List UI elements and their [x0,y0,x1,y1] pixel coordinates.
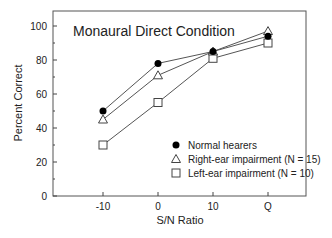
y-tick-label: 20 [36,157,48,168]
line-chart: Monaural Direct Condition 020406080100 -… [0,0,332,238]
open-square-marker [172,169,180,177]
y-tick-label: 100 [30,21,47,32]
y-tick-label: 60 [36,89,48,100]
chart-title: Monaural Direct Condition [73,23,235,39]
legend-label: Left-ear impairment (N = 10) [188,168,314,179]
open-triangle-marker [99,115,108,123]
legend: Normal hearersRight-ear impairment (N = … [172,140,321,179]
open-square-marker [99,141,107,149]
open-square-marker [264,39,272,47]
y-tick-label: 0 [41,191,47,202]
filled-circle-marker [100,108,107,115]
legend-item: Right-ear impairment (N = 15) [172,154,321,165]
series-line [103,31,268,119]
series-markers [99,39,272,149]
y-axis-label: Percent Correct [12,64,24,141]
filled-circle-marker [210,48,217,55]
open-triangle-marker [172,155,181,163]
legend-item: Normal hearers [173,140,257,151]
series-line [103,43,268,145]
filled-circle-marker [265,33,272,40]
series-markers [100,33,272,115]
open-triangle-marker [154,71,163,79]
data-series [99,27,273,149]
filled-circle-marker [173,142,180,149]
x-tick-label: 10 [207,201,219,212]
y-tick-label: 40 [36,123,48,134]
legend-label: Right-ear impairment (N = 15) [188,154,321,165]
x-tick-label: -10 [96,201,111,212]
open-square-marker [154,99,162,107]
legend-item: Left-ear impairment (N = 10) [172,168,314,179]
legend-label: Normal hearers [188,140,257,151]
x-axis-label: S/N Ratio [156,214,203,226]
x-tick-label: Q [264,201,272,212]
filled-circle-marker [155,60,162,67]
y-tick-label: 80 [36,55,48,66]
x-axis: -10010Q [96,192,272,212]
x-tick-label: 0 [155,201,161,212]
series-markers [99,27,273,123]
